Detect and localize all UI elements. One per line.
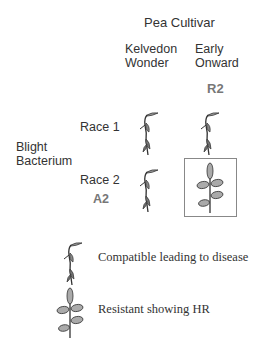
resistance-gene-label: R2 [207,82,224,96]
cultivar-name-line2: Onward [195,56,239,70]
wilted-plant-icon [62,241,86,287]
cultivar-kelvedon-wonder: Kelvedon Wonder [125,42,177,70]
pathogen-line2: Bacterium [16,154,72,168]
healthy-plant-icon [196,161,226,215]
avirulence-gene-label: A2 [93,192,109,206]
wilted-plant-icon [138,168,162,214]
resistant-cell-highlight [184,158,237,217]
wilted-plant-icon [199,111,223,157]
race-2-label: Race 2 [80,173,120,187]
legend-resistant-label: Resistant showing HR [98,302,210,317]
healthy-plant-icon [56,286,86,340]
wilted-plant-icon [138,111,162,157]
cultivar-name-line2: Wonder [125,56,177,70]
cultivar-name-line1: Early [195,42,239,56]
pathogen-axis-title: Blight Bacterium [16,140,72,168]
cultivar-name-line1: Kelvedon [125,42,177,56]
cultivar-early-onward: Early Onward [195,42,239,70]
pathogen-line1: Blight [16,140,72,154]
cultivar-axis-title: Pea Cultivar [144,16,215,30]
race-1-label: Race 1 [80,120,120,134]
legend-compatible-label: Compatible leading to disease [98,250,248,265]
